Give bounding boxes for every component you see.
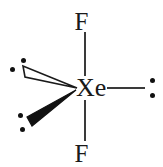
hollow-wedge-icon-upper-left	[23, 66, 77, 88]
lone-pair-dot-icon-right-2	[150, 93, 155, 98]
bond-line-icon-xe-f-bottom	[84, 100, 86, 141]
lewis-structure-diagram: F Xe F	[0, 0, 163, 167]
atom-label-fluorine-bottom: F	[0, 141, 163, 166]
bond-line-icon-xe-lone-pair-right	[107, 87, 145, 89]
solid-wedge-icon-lower-left	[27, 90, 76, 126]
lone-pair-dot-icon-upper-left-1	[21, 58, 26, 63]
atom-label-xenon-center: Xe	[76, 75, 106, 101]
lone-pair-dot-icon-lower-left-1	[18, 113, 23, 118]
lone-pair-dot-icon-upper-left-2	[10, 67, 15, 72]
lone-pair-dot-icon-right-1	[150, 78, 155, 83]
lone-pair-dot-icon-lower-left-2	[20, 127, 25, 132]
